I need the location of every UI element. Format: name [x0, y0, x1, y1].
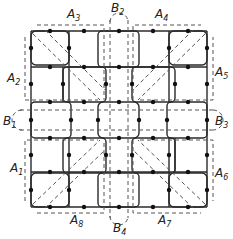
grid-partition-diagram: A3 B2 A4 A2 A5 B1 B3 A1 A6 A8 B4 A7: [0, 0, 233, 239]
label-b2: B2: [111, 1, 124, 17]
label-b3: B3: [215, 114, 228, 130]
region-labels: A3 B2 A4 A2 A5 B1 B3 A1 A6 A8 B4 A7: [3, 1, 228, 237]
label-a6: A6: [214, 166, 228, 182]
dashed-region-outlines: [12, 13, 223, 225]
grid-lines: [31, 31, 207, 207]
label-a1: A1: [9, 161, 23, 177]
label-a2: A2: [6, 71, 20, 87]
label-a5: A5: [214, 65, 228, 81]
label-a4: A4: [154, 7, 168, 23]
label-a8: A8: [69, 213, 83, 229]
label-b1: B1: [3, 114, 16, 130]
label-b4: B4: [113, 221, 126, 237]
label-a3: A3: [66, 7, 80, 23]
label-a7: A7: [157, 213, 172, 229]
